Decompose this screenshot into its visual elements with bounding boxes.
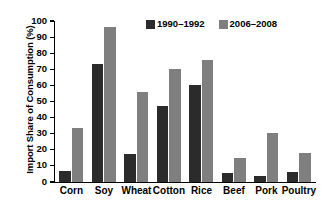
y-axis-tick-label: 90 xyxy=(1,31,47,43)
bar xyxy=(254,176,266,182)
legend-swatch-icon xyxy=(219,20,228,29)
y-axis-tick-label: 0 xyxy=(1,176,47,188)
legend-item[interactable]: 1990–1992 xyxy=(146,19,205,29)
bar xyxy=(189,85,201,182)
bar xyxy=(104,27,116,182)
y-axis-ticks: 0102030405060708090100 xyxy=(0,21,54,183)
y-axis-tick-label: 100 xyxy=(1,15,47,27)
bar xyxy=(222,173,234,182)
bar xyxy=(267,133,279,182)
bar-chart: Import Share of Consumption (%) 01020304… xyxy=(0,0,323,208)
bar xyxy=(59,171,71,182)
bar-group xyxy=(153,21,186,182)
bar xyxy=(234,158,246,182)
bar-group xyxy=(185,21,218,182)
y-axis-tick-label: 60 xyxy=(1,79,47,91)
bar-group xyxy=(88,21,121,182)
bar xyxy=(287,172,299,182)
y-axis-tick-label: 70 xyxy=(1,63,47,75)
y-axis-tick-label: 40 xyxy=(1,111,47,123)
legend-label: 1990–1992 xyxy=(157,19,205,29)
legend: 1990–19922006–2008 xyxy=(146,19,277,29)
legend-label: 2006–2008 xyxy=(230,19,278,29)
x-axis-labels: CornSoyWheatCottonRiceBeefPorkPoultry xyxy=(55,185,315,205)
legend-item[interactable]: 2006–2008 xyxy=(219,19,278,29)
bar xyxy=(92,64,104,182)
y-axis-tick-label: 30 xyxy=(1,127,47,139)
y-axis-tick-label: 50 xyxy=(1,95,47,107)
bars-layer xyxy=(55,21,315,182)
y-axis-tick-label: 10 xyxy=(1,159,47,171)
legend-swatch-icon xyxy=(146,20,155,29)
bar-group xyxy=(283,21,316,182)
bar xyxy=(202,60,214,182)
y-axis-tick-label: 20 xyxy=(1,143,47,155)
bar xyxy=(169,69,181,182)
bar xyxy=(157,106,169,182)
y-axis-tick-label: 80 xyxy=(1,47,47,59)
bar-group xyxy=(120,21,153,182)
bar-group xyxy=(55,21,88,182)
bar-group xyxy=(250,21,283,182)
bar xyxy=(137,92,149,182)
x-axis-label: Poultry xyxy=(277,185,322,196)
bar xyxy=(72,128,84,182)
bar xyxy=(124,154,136,182)
bar xyxy=(299,153,311,182)
bar-group xyxy=(218,21,251,182)
